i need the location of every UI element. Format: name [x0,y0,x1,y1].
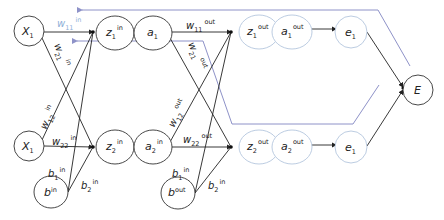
label-w21-out: w21out [183,40,210,74]
edge-e1top-E [367,32,403,87]
label-b2-in: b2in [81,178,98,194]
label-E: E [414,84,421,97]
edge-w21-out [170,38,231,147]
edge-b1-out [195,32,231,193]
label-w21-in: w21in [49,41,73,70]
junction-z1out [229,30,233,34]
node-a1-out [272,15,312,49]
backprop-line-middle [77,41,379,124]
label-w11-in: w11in [57,16,81,32]
label-b2-out: b2in [208,178,225,194]
label-w22-in: w22in [52,134,76,150]
node-a2-out [272,130,312,164]
edge-w21-in [42,38,93,147]
junction-z1in [91,30,95,34]
junction-z2in [91,145,95,149]
neural-network-diagram: X1 X1 bin z1in a1 z2in a2in bout z1out a… [0,0,444,220]
junction-z2out [229,145,233,149]
label-w12-in: w12in [36,103,61,132]
junction-dots [91,30,404,149]
label-w12-out: w12out [164,97,191,131]
label-w22-out: w22out [183,132,213,148]
edge-w12-out [170,32,231,142]
edge-b1-in [68,32,93,192]
edge-e1bottom-E [367,90,403,146]
